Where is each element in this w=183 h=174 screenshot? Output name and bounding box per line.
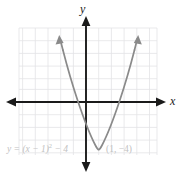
vertex-point-annotation: (1, −4) [106, 145, 132, 155]
equation-annotation: y = (x − 1)2 − 4 [7, 143, 68, 155]
equation-prefix: y = (x − 1) [7, 144, 49, 154]
y-axis-label: y [80, 3, 85, 15]
curve-arrow-right [134, 35, 142, 50]
equation-suffix: − 4 [52, 144, 68, 154]
graph-figure: y x y = (x − 1)2 − 4 (1, −4) [0, 0, 183, 174]
y-axis [82, 16, 91, 172]
x-axis-label: x [170, 95, 175, 107]
